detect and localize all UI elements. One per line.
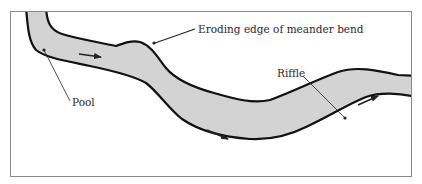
diagram-canvas: Eroding edge of meander bend Pool Riffle [0, 0, 422, 184]
eroding-edge-label: Eroding edge of meander bend [198, 23, 364, 35]
riffle-label: Riffle [277, 67, 305, 79]
eroding-edge-pointer-dot [152, 41, 155, 44]
meander-diagram: Eroding edge of meander bend Pool Riffle [0, 0, 422, 184]
pool-pointer-dot [42, 48, 45, 51]
riffle-pointer-dot [343, 116, 346, 119]
pool-label: Pool [72, 96, 95, 108]
